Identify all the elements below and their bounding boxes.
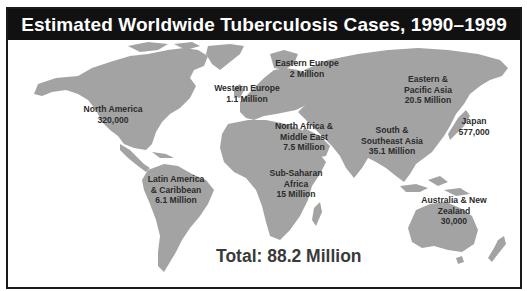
region-value: 35.1 Million xyxy=(361,146,423,157)
region-name: North America xyxy=(84,104,143,115)
region-name: Sub-Saharan xyxy=(269,168,322,179)
map-title: Estimated Worldwide Tuberculosis Cases, … xyxy=(21,14,507,36)
region-label-australia-new-zealand: Australia & New Zealand 30,000 xyxy=(421,195,486,227)
landmass-greenland xyxy=(206,44,244,70)
region-value: 2 Million xyxy=(275,69,339,80)
region-name: Eastern Europe xyxy=(275,58,339,69)
total-cases: Total: 88.2 Million xyxy=(216,246,362,267)
region-name: Japan xyxy=(458,116,489,127)
region-name: Eastern & xyxy=(404,74,452,85)
region-value: 7.5 Million xyxy=(275,142,333,153)
landmass-new-zealand xyxy=(488,236,506,262)
landmass-tasmania xyxy=(456,256,464,264)
region-label-sub-saharan-africa: Sub-Saharan Africa 15 Million xyxy=(269,168,322,200)
region-name-cont: Southeast Asia xyxy=(361,136,423,147)
region-value: 15 Million xyxy=(269,189,322,200)
region-name-cont: Pacific Asia xyxy=(404,85,452,96)
region-value: 320,000 xyxy=(84,115,143,126)
region-label-eastern-pacific-asia: Eastern & Pacific Asia 20.5 Million xyxy=(404,74,452,106)
region-label-north-america: North America 320,000 xyxy=(84,104,143,125)
map-figure: Estimated Worldwide Tuberculosis Cases, … xyxy=(6,7,522,289)
title-bar: Estimated Worldwide Tuberculosis Cases, … xyxy=(8,9,520,40)
region-name-cont: Middle East xyxy=(275,132,333,143)
landmass-north-america xyxy=(34,48,208,150)
region-name: Australia & New xyxy=(421,195,486,206)
region-name-cont: Africa xyxy=(269,179,322,190)
region-value: 30,000 xyxy=(421,216,486,227)
region-label-japan: Japan 577,000 xyxy=(458,116,489,137)
region-name: Latin America xyxy=(148,174,205,185)
region-value: 6.1 Million xyxy=(148,195,205,206)
region-name: North Africa & xyxy=(275,121,333,132)
region-name: Western Europe xyxy=(214,83,280,94)
region-name-cont: Zealand xyxy=(421,206,486,217)
region-name-cont: & Caribbean xyxy=(148,185,205,196)
landmass-madagascar xyxy=(312,202,322,226)
region-value: 1.1 Million xyxy=(214,94,280,105)
region-label-eastern-europe: Eastern Europe 2 Million xyxy=(275,58,339,79)
region-label-north-africa-middle-east: North Africa & Middle East 7.5 Million xyxy=(275,121,333,153)
region-label-south-southeast-asia: South & Southeast Asia 35.1 Million xyxy=(361,125,423,157)
region-name: South & xyxy=(361,125,423,136)
region-value: 20.5 Million xyxy=(404,95,452,106)
region-value: 577,000 xyxy=(458,127,489,138)
region-label-latin-america: Latin America & Caribbean 6.1 Million xyxy=(148,174,205,206)
landmass-southeast-asia-islands xyxy=(400,176,470,196)
region-label-western-europe: Western Europe 1.1 Million xyxy=(214,83,280,104)
